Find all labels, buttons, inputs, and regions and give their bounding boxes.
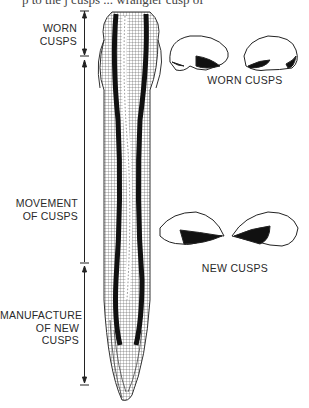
radula-ribbon <box>98 12 161 400</box>
new-cusp-left <box>160 212 224 245</box>
dimension-arrows <box>80 11 89 385</box>
label-new-cusps-right: NEW CUSPS <box>190 262 280 274</box>
label-movement-of-cusps: MOVEMENT OF CUSPS <box>10 197 78 222</box>
label-worn-cusps-right: WORN CUSPS <box>200 74 290 86</box>
worn-cusp-left <box>170 36 228 71</box>
new-cusp-right <box>232 212 298 246</box>
label-worn-cusps: WORN CUSPS <box>30 22 77 47</box>
label-manufacture-of-new-cusps: MANUFACTURE OF NEW CUSPS <box>0 309 79 347</box>
worn-cusp-right <box>244 36 297 71</box>
